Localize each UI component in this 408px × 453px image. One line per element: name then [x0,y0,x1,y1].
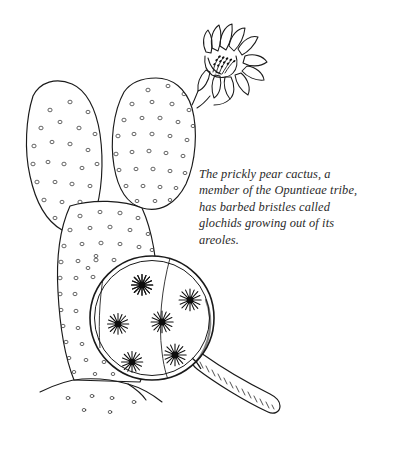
figure-caption: The prickly pear cactus, a member of the… [199,166,359,248]
cactus-pad-upper-right [112,78,195,209]
illustration-canvas: The prickly pear cactus, a member of the… [0,0,408,453]
